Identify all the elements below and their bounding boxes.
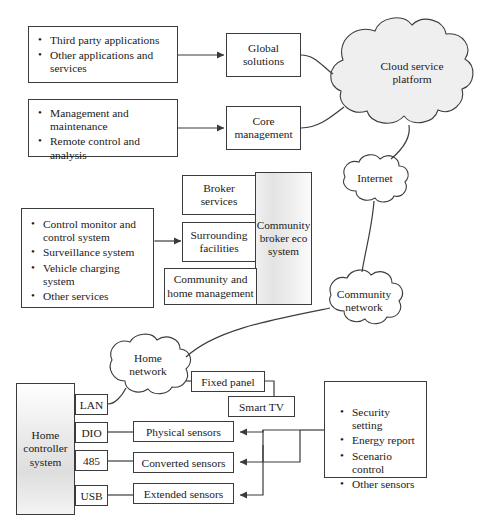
wire-bus-extended [240, 445, 263, 495]
wire-bus-physical [240, 430, 300, 432]
list-item: Other services [30, 290, 147, 303]
wire-lan-homenetwork [108, 388, 126, 404]
wire-bus-converted [240, 430, 300, 462]
port-dio: DIO [75, 422, 108, 443]
core-management-line1: Core [252, 115, 274, 128]
management-box: Management and maintenance Remote contro… [28, 99, 178, 157]
wire-internet-community [362, 201, 374, 272]
port-485: 485 [75, 450, 108, 471]
list-item: Remote control and analysis [37, 135, 171, 161]
broker-services-line1: Broker [203, 182, 235, 195]
broker-services-box: Broker services [182, 175, 256, 215]
port-lan-label: LAN [80, 399, 103, 411]
list-item: Third party applications [37, 34, 171, 47]
surrounding-facilities-box: Surrounding facilities [182, 222, 256, 262]
smart-tv-label: Smart TV [239, 401, 284, 413]
physical-sensors-label: Physical sensors [146, 426, 221, 438]
wire-global-cloud [301, 55, 333, 74]
community-network-cloud-shape [330, 270, 403, 324]
chm-line2: home management [167, 287, 253, 300]
core-management-line2: management [234, 128, 292, 141]
wire-community-home [186, 308, 330, 357]
list-item: Other applications and services [37, 49, 171, 75]
community-home-management-box: Community and home management [164, 268, 257, 305]
global-solutions-box: Global solutions [226, 33, 301, 77]
list-item: Security setting [339, 406, 420, 432]
smart-tv-box: Smart TV [228, 396, 295, 417]
port-dio-label: DIO [81, 427, 101, 439]
wire-core-cloud [301, 107, 344, 128]
hcs-line1: Home [32, 429, 60, 442]
fixed-panel-box: Fixed panel [191, 371, 265, 392]
home-network-cloud-shape [110, 334, 190, 394]
list-item: Surveillance system [30, 246, 147, 259]
cloud-service-platform-shape [331, 18, 473, 123]
eco-line2: broker eco [260, 232, 308, 245]
home-controller-system-box: Home controller system [16, 383, 75, 515]
list-item: Control monitor and control system [30, 218, 147, 244]
extended-sensors-label: Extended sensors [144, 488, 223, 500]
hcs-line2: controller [23, 442, 67, 455]
diagram-canvas: Third party applications Other applicati… [0, 0, 477, 530]
port-485-label: 485 [83, 455, 100, 467]
community-broker-eco-system-panel: Community broker eco system [255, 172, 312, 305]
surrounding-facilities-line2: facilities [199, 242, 238, 255]
services-box: Control monitor and control system Surve… [21, 208, 154, 308]
features-box: Security setting Energy report Scenario … [324, 381, 427, 478]
wire-cloud-internet [391, 125, 409, 159]
chm-line1: Community and [174, 273, 248, 286]
global-solutions-line2: solutions [243, 55, 284, 68]
list-item: Vehicle charging system [30, 262, 147, 288]
port-usb-label: USB [80, 490, 102, 502]
surrounding-facilities-line1: Surrounding [191, 229, 248, 242]
broker-services-line2: services [201, 195, 238, 208]
converted-sensors-box: Converted sensors [133, 452, 234, 473]
extended-sensors-box: Extended sensors [133, 483, 234, 504]
core-management-box: Core management [226, 106, 301, 150]
list-item: Other sensors [339, 478, 420, 491]
list-item: Energy report [339, 434, 420, 447]
hcs-line3: system [30, 456, 62, 469]
physical-sensors-box: Physical sensors [133, 421, 234, 442]
port-usb: USB [75, 485, 108, 506]
internet-cloud-shape [344, 155, 409, 202]
eco-line3: system [268, 245, 299, 258]
list-item: Scenario control [339, 450, 420, 476]
list-item: Management and maintenance [37, 107, 171, 133]
converted-sensors-label: Converted sensors [142, 457, 226, 469]
fixed-panel-label: Fixed panel [201, 376, 254, 388]
port-lan: LAN [75, 394, 108, 415]
global-solutions-line1: Global [248, 42, 279, 55]
applications-box: Third party applications Other applicati… [28, 26, 178, 83]
eco-line1: Community [257, 219, 310, 232]
